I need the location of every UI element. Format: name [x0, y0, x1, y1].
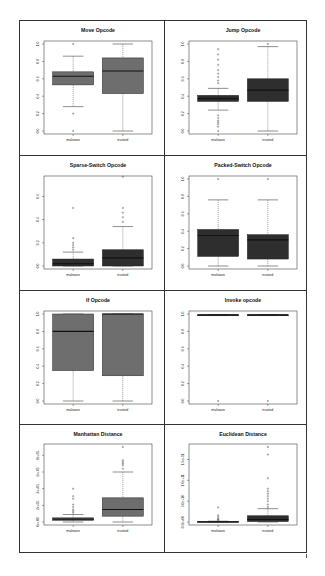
- box-trusted: [102, 446, 143, 522]
- y-tick-label: 1.0: [181, 177, 185, 182]
- y-tick-label: 0e+00: [36, 517, 40, 527]
- y-tick-label: 1.5e+11: [181, 453, 185, 465]
- box-malware: [198, 507, 239, 523]
- box-malware: [198, 49, 239, 132]
- y-tick-label: 1.0e+11: [181, 474, 185, 486]
- boxplot-chart: Jump Opcode0.00.20.40.60.81.0malwaretrus…: [165, 21, 308, 154]
- x-tick-label: malware: [66, 529, 80, 533]
- chart-title: Jump Opcode: [226, 27, 261, 33]
- x-tick-label: trusted: [262, 273, 273, 277]
- y-tick-label: 1.0: [36, 42, 40, 47]
- y-tick-label: 2e+05: [36, 500, 40, 510]
- y-tick-label: 1.0: [181, 42, 185, 47]
- boxplot-chart: If Opcode0.00.20.40.60.81.0malwaretruste…: [20, 291, 163, 424]
- boxplot-chart: Sparse-Switch Opcode0.00.20.40.6malwaret…: [20, 156, 163, 289]
- box-trusted: [247, 446, 288, 522]
- y-tick-label: 6e+05: [36, 467, 40, 477]
- y-tick-label: 0.8: [36, 59, 40, 64]
- y-tick-label: 0.6: [36, 346, 40, 351]
- y-tick-label: 0.8: [36, 329, 40, 334]
- y-tick-label: 0.0: [181, 399, 185, 404]
- box-trusted: [102, 314, 143, 401]
- x-tick-label: malware: [66, 138, 80, 142]
- y-tick-label: 0.2: [36, 111, 40, 116]
- y-tick-label: 0.8: [181, 194, 185, 199]
- chart-title: Packed-Switch Opcode: [214, 162, 271, 168]
- chart-title: If Opcode: [86, 297, 110, 303]
- panel-if-opcode: If Opcode0.00.20.40.60.81.0malwaretruste…: [20, 291, 163, 424]
- y-tick-label: 0.2: [181, 246, 185, 251]
- box-malware: [53, 488, 94, 522]
- x-tick-label: trusted: [262, 138, 273, 142]
- y-tick-label: 5.0e+10: [181, 495, 185, 507]
- box-trusted: [102, 44, 143, 131]
- box-trusted: [102, 176, 143, 266]
- x-tick-label: trusted: [117, 138, 128, 142]
- y-tick-label: 1.0: [181, 312, 185, 317]
- y-tick-label: 8e+05: [36, 450, 40, 460]
- box-trusted: [247, 315, 288, 402]
- x-tick-label: trusted: [117, 408, 128, 412]
- figure-grid: Move Opcode0.00.20.40.60.81.0malwaretrus…: [19, 20, 307, 553]
- y-tick-label: 0.0e+00: [181, 516, 185, 528]
- box-malware: [198, 178, 239, 266]
- panel-packed-switch-opcode: Packed-Switch Opcode0.00.20.40.60.81.0ma…: [165, 156, 308, 289]
- panel-sparse-switch-opcode: Sparse-Switch Opcode0.00.20.40.6malwaret…: [20, 156, 163, 289]
- y-tick-label: 0.4: [181, 229, 185, 234]
- x-tick-label: malware: [66, 408, 80, 412]
- box-malware: [198, 315, 239, 402]
- y-tick-label: 0.6: [36, 194, 40, 199]
- boxplot-chart: Euclidean Distance0.0e+005.0e+101.0e+111…: [165, 425, 308, 553]
- y-tick-label: 0.6: [36, 76, 40, 81]
- x-tick-label: malware: [211, 273, 225, 277]
- panel-euclidean-distance: Euclidean Distance0.0e+005.0e+101.0e+111…: [165, 425, 308, 553]
- y-tick-label: 0.2: [181, 111, 185, 116]
- x-tick-label: malware: [211, 408, 225, 412]
- x-tick-label: malware: [211, 138, 225, 142]
- boxplot-chart: Move Opcode0.00.20.40.60.81.0malwaretrus…: [20, 21, 163, 154]
- y-tick-label: 0.2: [36, 240, 40, 245]
- y-tick-label: 0.2: [36, 381, 40, 386]
- y-tick-label: 4e+05: [36, 484, 40, 494]
- y-tick-label: 0.0: [181, 264, 185, 269]
- y-tick-label: 0.6: [181, 346, 185, 351]
- y-tick-label: 0.0: [36, 399, 40, 404]
- y-tick-label: 0.6: [181, 211, 185, 216]
- chart-title: Invoke opcode: [225, 297, 261, 303]
- chart-title: Move Opcode: [81, 27, 115, 33]
- box-malware: [53, 43, 94, 131]
- y-tick-label: 0.4: [181, 364, 185, 369]
- boxplot-chart: Packed-Switch Opcode0.00.20.40.60.81.0ma…: [165, 156, 308, 289]
- y-tick-label: 0.4: [36, 364, 40, 369]
- panel-move-opcode: Move Opcode0.00.20.40.60.81.0malwaretrus…: [20, 21, 163, 154]
- x-tick-label: trusted: [117, 273, 128, 277]
- x-tick-label: trusted: [117, 529, 128, 533]
- y-tick-label: 0.4: [181, 94, 185, 99]
- x-tick-label: malware: [66, 273, 80, 277]
- panel-manhattan-distance: Manhattan Distance0e+002e+054e+056e+058e…: [20, 425, 163, 553]
- y-tick-label: 1.0: [36, 312, 40, 317]
- x-tick-label: trusted: [262, 529, 273, 533]
- y-tick-label: 0.8: [181, 59, 185, 64]
- chart-title: Sparse-Switch Opcode: [70, 162, 127, 168]
- y-tick-label: 0.2: [181, 381, 185, 386]
- x-tick-label: malware: [211, 529, 225, 533]
- y-tick-label: 0.6: [181, 76, 185, 81]
- chart-title: Euclidean Distance: [219, 431, 267, 437]
- chart-title: Manhattan Distance: [73, 431, 122, 437]
- y-tick-label: 0.8: [181, 329, 185, 334]
- box-malware: [53, 207, 94, 266]
- y-tick-label: 0.0: [36, 129, 40, 134]
- y-tick-label: 0.0: [181, 129, 185, 134]
- box-malware: [53, 314, 94, 401]
- y-tick-label: 0.0: [36, 264, 40, 269]
- panel-invoke-opcode: Invoke opcode0.00.20.40.60.81.0malwaretr…: [165, 291, 308, 424]
- y-tick-label: 0.4: [36, 217, 40, 222]
- x-tick-label: trusted: [262, 408, 273, 412]
- box-trusted: [247, 43, 288, 131]
- boxplot-chart: Invoke opcode0.00.20.40.60.81.0malwaretr…: [165, 291, 308, 424]
- panel-jump-opcode: Jump Opcode0.00.20.40.60.81.0malwaretrus…: [165, 21, 308, 154]
- y-tick-label: 0.4: [36, 94, 40, 99]
- box-trusted: [247, 178, 288, 266]
- corner-mark: [306, 554, 307, 558]
